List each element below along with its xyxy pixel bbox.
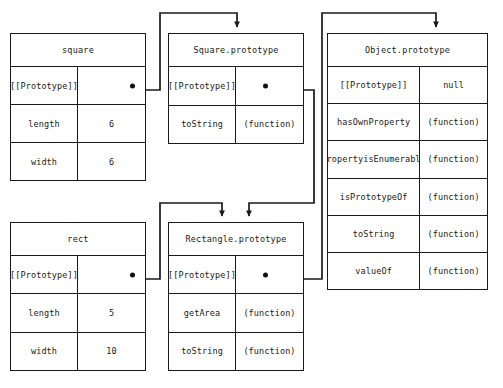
property-value-pointer	[236, 256, 303, 293]
property-value: (function)	[420, 104, 487, 140]
property-value: 6	[78, 143, 145, 180]
property-row: width 10	[11, 333, 145, 370]
property-row: propertyisEnumerable (function)	[328, 141, 487, 178]
property-key: valueOf	[328, 253, 420, 289]
property-value: (function)	[420, 179, 487, 215]
property-key: [[Prototype]]	[11, 256, 78, 293]
property-key: [[Prototype]]	[169, 256, 236, 293]
property-value: (function)	[420, 216, 487, 252]
pointer-dot	[130, 83, 135, 88]
property-value: null	[420, 67, 487, 103]
box-title-square: square	[11, 34, 145, 67]
property-row: getArea (function)	[169, 294, 303, 332]
property-key: width	[11, 143, 78, 180]
box-title-object-prototype: Object.prototype	[328, 34, 487, 67]
property-value-pointer	[78, 256, 145, 293]
property-value-pointer	[78, 67, 145, 104]
property-key: [[Prototype]]	[328, 67, 420, 103]
property-row: length 6	[11, 105, 145, 143]
object-box-square: square [[Prototype]] length 6 width 6	[10, 33, 146, 181]
diagram-canvas: square [[Prototype]] length 6 width 6 Sq…	[0, 0, 503, 388]
pointer-dot	[263, 272, 268, 277]
box-title-rectangle-prototype: Rectangle.prototype	[169, 223, 303, 256]
property-key: length	[11, 294, 78, 331]
property-row: toString (function)	[328, 216, 487, 253]
property-value: (function)	[236, 106, 303, 144]
property-row: [[Prototype]]	[11, 256, 145, 294]
property-value-pointer	[236, 67, 303, 105]
box-title-square-prototype: Square.prototype	[169, 34, 303, 67]
property-key: isPrototypeOf	[328, 179, 420, 215]
property-value: (function)	[236, 333, 303, 370]
property-key: toString	[169, 106, 236, 144]
box-title-rect: rect	[11, 223, 145, 256]
pointer-dot	[263, 83, 268, 88]
object-box-object-prototype: Object.prototype [[Prototype]] null hasO…	[327, 33, 488, 290]
property-key: toString	[328, 216, 420, 252]
property-row: isPrototypeOf (function)	[328, 179, 487, 216]
property-value: (function)	[420, 253, 487, 289]
property-key: [[Prototype]]	[169, 67, 236, 105]
property-value: (function)	[420, 141, 487, 177]
property-row: [[Prototype]] null	[328, 67, 487, 104]
property-value: (function)	[236, 294, 303, 331]
object-box-rectangle-prototype: Rectangle.prototype [[Prototype]] getAre…	[168, 222, 304, 371]
property-row: [[Prototype]]	[11, 67, 145, 105]
property-key: [[Prototype]]	[11, 67, 78, 104]
property-key: hasOwnProperty	[328, 104, 420, 140]
property-key: width	[11, 333, 78, 370]
object-box-rect: rect [[Prototype]] length 5 width 10	[10, 222, 146, 371]
property-row: [[Prototype]]	[169, 256, 303, 294]
property-row: hasOwnProperty (function)	[328, 104, 487, 141]
property-value: 6	[78, 105, 145, 142]
property-key: propertyisEnumerable	[328, 141, 420, 177]
property-row: [[Prototype]]	[169, 67, 303, 106]
property-row: width 6	[11, 143, 145, 180]
property-row: toString (function)	[169, 333, 303, 370]
property-value: 5	[78, 294, 145, 331]
property-row: valueOf (function)	[328, 253, 487, 289]
property-row: toString (function)	[169, 106, 303, 144]
property-row: length 5	[11, 294, 145, 332]
property-key: toString	[169, 333, 236, 370]
object-box-square-prototype: Square.prototype [[Prototype]] toString …	[168, 33, 304, 144]
pointer-dot	[130, 272, 135, 277]
property-key: length	[11, 105, 78, 142]
property-value: 10	[78, 333, 145, 370]
property-key: getArea	[169, 294, 236, 331]
